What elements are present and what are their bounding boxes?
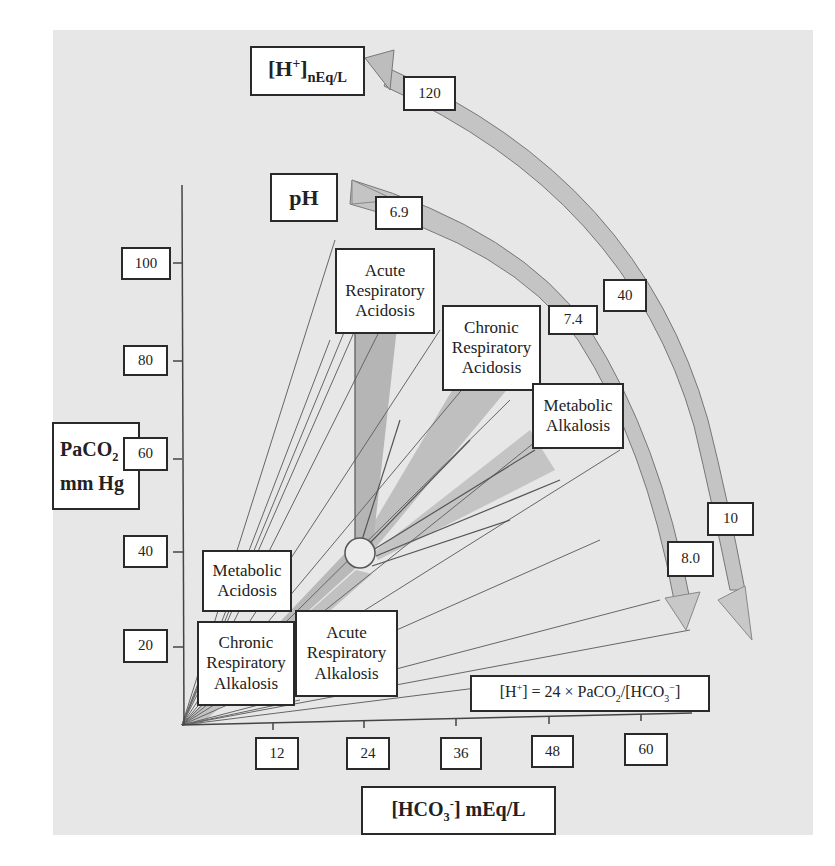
x-tick-12: 12 [255,737,299,770]
x-tick-24: 24 [346,737,390,770]
h-ion-scale-label: [H+]nEq/L [250,46,365,96]
y-tick-20: 20 [123,629,168,663]
ph-value-6.9: 6.9 [375,196,423,230]
region-acute-respiratory-acidosis: Acute Respiratory Acidosis [335,248,435,334]
region-chronic-respiratory-acidosis: Chronic Respiratory Acidosis [442,305,541,391]
y-tick-100: 100 [121,247,171,280]
region-metabolic-alkalosis: Metabolic Alkalosis [532,383,624,449]
y-axis-ticks [173,263,183,647]
x-tick-36: 36 [440,737,482,770]
y-tick-40: 40 [123,535,168,568]
h-value-40: 40 [603,279,647,312]
normal-point-circle [345,538,375,568]
y-tick-60: 60 [123,437,168,471]
y-tick-80: 80 [123,345,168,376]
x-tick-48: 48 [531,735,574,768]
h-value-10: 10 [707,502,754,536]
region-acute-respiratory-alkalosis: Acute Respiratory Alkalosis [295,610,398,697]
ph-scale-arrowhead [665,592,700,630]
h-scale-arrowhead [365,50,394,90]
h-scale-bottom-arrowhead [718,586,752,640]
h-value-120: 120 [403,76,456,111]
region-chronic-respiratory-alkalosis: Chronic Respiratory Alkalosis [197,621,295,706]
henderson-equation: [H+] = 24 × PaCO2/[HCO3−] [470,675,710,712]
x-axis-title: [HCO3-] mEq/L [361,786,556,835]
ph-value-8.0: 8.0 [667,541,714,577]
region-metabolic-acidosis: Metabolic Acidosis [202,550,292,612]
x-axis-line [182,713,692,725]
y-axis-line [182,185,184,725]
x-tick-60: 60 [624,733,668,766]
ph-value-7.4: 7.4 [548,305,598,335]
ph-scale-label: pH [270,173,338,222]
